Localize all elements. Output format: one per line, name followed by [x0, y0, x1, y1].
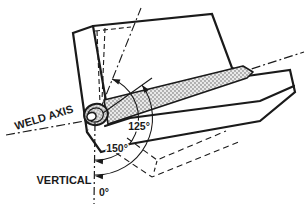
angle-150-label: 150°: [106, 142, 128, 154]
angle-125-label: 125°: [128, 120, 150, 132]
angle-0-label: 0°: [99, 186, 109, 198]
diagram-canvas: WELD AXIS VERTICAL 125° 150° 0°: [0, 0, 308, 214]
vertical-label: VERTICAL: [37, 174, 92, 186]
weld-position-diagram: WELD AXIS VERTICAL 125° 150° 0°: [0, 0, 308, 214]
